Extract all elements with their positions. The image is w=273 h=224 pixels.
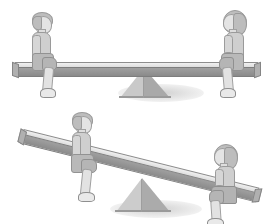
tilted-seesaw-scene: [0, 104, 273, 224]
boy-shoe-bottom: [78, 192, 95, 202]
illustration-canvas: balanced tilted Two seesaw illustrations: [0, 0, 273, 224]
fulcrum-left-face-bottom: [116, 178, 142, 212]
plank-top-left-cap: [12, 62, 19, 78]
fulcrum-edge-line-bottom: [141, 179, 142, 212]
fulcrum-base-line-bottom: [115, 210, 171, 212]
boy-hair-back: [32, 16, 42, 30]
girl-shoe-bottom: [207, 218, 224, 224]
boy-hair-back-bottom: [72, 116, 82, 130]
girl-shoe: [220, 88, 236, 98]
balanced-seesaw-scene: [0, 0, 273, 110]
boy-shoe: [40, 88, 56, 98]
plank-top-right-cap: [254, 62, 261, 78]
fulcrum-right-face-bottom: [142, 178, 170, 212]
fulcrum-base-line: [119, 96, 171, 98]
fulcrum-bottom: [116, 178, 170, 212]
